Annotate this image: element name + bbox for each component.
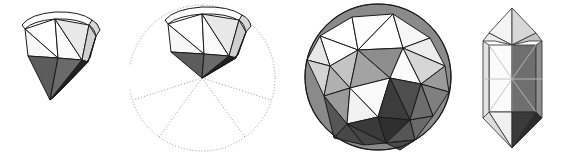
band-left-edge — [483, 41, 489, 118]
guide-radius-lower-right — [202, 78, 271, 100]
guide-radius-bottom-left — [159, 78, 202, 137]
partial-dome-faces — [22, 12, 100, 100]
full-polyhedron-drawing — [290, 0, 465, 155]
panel-dome-in-circle — [130, 0, 290, 155]
guide-radius-bottom-right — [202, 78, 245, 137]
face-lower-front-dark — [171, 52, 204, 78]
panel-full-polyhedron — [290, 0, 465, 155]
dome-in-circle-drawing — [130, 0, 290, 155]
band-right-edge — [536, 41, 542, 118]
panel-partial-dome — [0, 0, 130, 155]
dome-in-circle-faces — [165, 7, 251, 78]
band-right-dark — [512, 45, 536, 112]
partial-dome-drawing — [0, 0, 130, 155]
polyhedron-faces — [305, 4, 451, 150]
elongated-solid-drawing — [465, 0, 563, 155]
panel-elongated-solid — [465, 0, 563, 155]
elongated-solid-faces — [483, 8, 542, 148]
guide-radius-lower-left — [133, 78, 202, 100]
band-left-white — [489, 45, 512, 112]
figure-strip — [0, 0, 563, 155]
